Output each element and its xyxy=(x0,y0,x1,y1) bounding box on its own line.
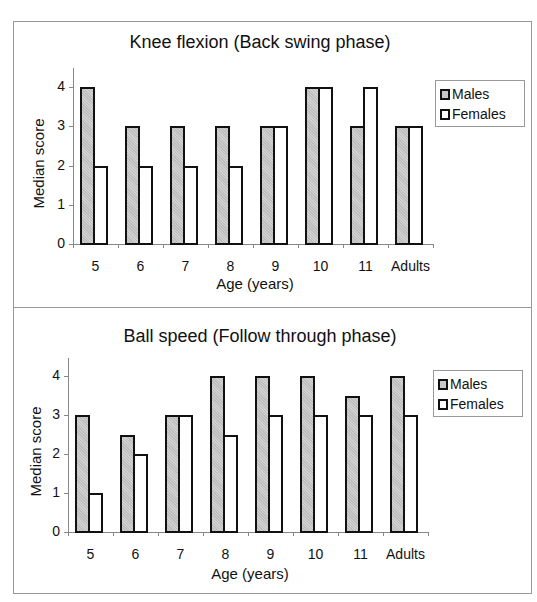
x-tick xyxy=(203,532,204,536)
legend: Males Females xyxy=(433,370,523,417)
chart-ball-speed: Ball speed (Follow through phase) Median… xyxy=(0,0,537,602)
x-tick xyxy=(293,532,294,536)
x-tick xyxy=(68,532,69,536)
y-axis xyxy=(68,358,69,532)
x-tick xyxy=(248,532,249,536)
y-tick-label: 0 xyxy=(40,523,60,539)
bar-females xyxy=(223,435,238,534)
y-tick-label: 4 xyxy=(40,367,60,383)
y-tick xyxy=(64,376,68,377)
x-tick xyxy=(158,532,159,536)
x-tick-label: 11 xyxy=(338,546,383,562)
x-axis-title: Age (years) xyxy=(150,565,350,582)
y-tick-label: 2 xyxy=(40,445,60,461)
x-tick xyxy=(428,532,429,536)
x-tick-label: 9 xyxy=(248,546,293,562)
males-swatch-icon xyxy=(438,379,448,390)
x-tick-label: Adults xyxy=(383,546,428,562)
y-tick xyxy=(64,454,68,455)
y-tick-label: 1 xyxy=(40,484,60,500)
x-tick-label: 10 xyxy=(293,546,338,562)
bar-females xyxy=(178,415,193,533)
x-tick-label: 7 xyxy=(158,546,203,562)
bar-females xyxy=(133,454,148,533)
females-swatch-icon xyxy=(438,399,448,410)
x-tick xyxy=(113,532,114,536)
x-tick-label: 5 xyxy=(68,546,113,562)
x-tick xyxy=(338,532,339,536)
bar-females xyxy=(313,415,328,533)
legend-label: Females xyxy=(450,396,504,412)
x-tick-label: 8 xyxy=(203,546,248,562)
legend-item-females: Females xyxy=(438,396,504,412)
legend-item-males: Males xyxy=(438,376,487,392)
bar-females xyxy=(268,415,283,533)
bar-females xyxy=(403,415,418,533)
x-tick-label: 6 xyxy=(113,546,158,562)
x-tick xyxy=(383,532,384,536)
x-axis xyxy=(64,532,428,533)
y-tick-label: 3 xyxy=(40,406,60,422)
bar-females xyxy=(358,415,373,533)
legend-label: Males xyxy=(450,376,487,392)
bar-females xyxy=(88,493,103,533)
y-tick xyxy=(64,415,68,416)
y-tick xyxy=(64,493,68,494)
chart-title: Ball speed (Follow through phase) xyxy=(60,326,460,347)
